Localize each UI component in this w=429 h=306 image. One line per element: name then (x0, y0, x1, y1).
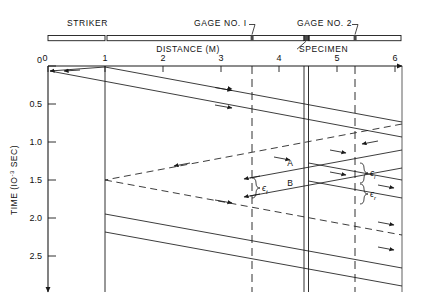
wave-striker-release (50, 71, 402, 137)
y-axis-title: TIME (IO-3 SEC) (9, 145, 20, 215)
x-axis-title: DISTANCE (M) (156, 44, 219, 54)
gage-1-marker-shape (251, 36, 254, 41)
y-tick-label-0: 0 (37, 55, 42, 65)
x-tick-label-2: 2 (160, 53, 165, 63)
y-tick-marks (48, 66, 56, 256)
wave-characteristics (50, 67, 402, 286)
xt-diagram: STRIKER GAGE NO. I GAGE NO. 2 SPECIMEN 0… (0, 0, 429, 306)
eps-r-bracket (360, 184, 368, 204)
axes: 0 1 2 3 4 5 6 0 0.5 1.0 1.5 2.0 2.5 DIST… (9, 44, 403, 292)
wave-lower-solid-2 (105, 232, 402, 286)
vertical-markers (105, 66, 402, 292)
arrow-release-right (215, 105, 232, 108)
wave-specimen-reflect-2 (250, 168, 402, 196)
arrow-guide-1 (160, 76, 232, 89)
y-tick-label-05: 0.5 (29, 99, 42, 109)
arrow-lower-right-1 (378, 247, 394, 250)
striker-label: STRIKER (67, 18, 108, 28)
incident-bar-shape (107, 36, 304, 41)
y-tick-label-15: 1.5 (29, 175, 42, 185)
gage-2-leader-line (352, 25, 358, 35)
wave-specimen-reflect-1 (250, 150, 402, 178)
eps-transmitted-label: ϵt (262, 183, 268, 195)
point-b-label: B (287, 178, 293, 188)
x-tick-label-6: 6 (392, 53, 397, 63)
svg-text:TIME (IO-3 SEC): TIME (IO-3 SEC) (9, 145, 20, 215)
x-tick-label-5: 5 (334, 53, 339, 63)
specimen-label: SPECIMEN (299, 44, 348, 54)
wave-incident-front-b (105, 68, 402, 124)
wave-incident-front (105, 67, 402, 122)
arrow-incident-right (215, 88, 232, 91)
eps-incident-label: ϵi (370, 168, 376, 180)
gage-2-label: GAGE NO. 2 (297, 18, 352, 28)
y-tick-label-10: 1.0 (29, 137, 42, 147)
striker-bar-shape (48, 36, 105, 41)
arrow-reflect-back-left (362, 141, 378, 144)
y-axis-title-main: TIME (IO (9, 177, 19, 215)
annotations: A B ϵi ϵr ϵt (252, 158, 377, 204)
gage-2-marker-shape (354, 36, 357, 41)
x-tick-label-4: 4 (276, 53, 281, 63)
wave-lower-solid-1 (105, 214, 402, 268)
x-tick-label-0: 0 (42, 53, 47, 63)
gage-1-leader-line (249, 25, 255, 35)
x-tick-marks (48, 66, 395, 72)
specimen-shape (304, 36, 309, 41)
arrow-transmitted-right (330, 150, 346, 153)
x-tick-label-3: 3 (218, 53, 223, 63)
eps-reflected-label: ϵr (370, 189, 377, 201)
wave-reflected-dashed-right (105, 180, 402, 235)
arrow-far-right (378, 185, 394, 188)
point-a-label: A (287, 158, 293, 168)
arrow-transmitted-right-2 (330, 172, 346, 175)
x-tick-label-1: 1 (102, 53, 107, 63)
wave-direction-arrows (64, 70, 394, 250)
arrow-lower-right-2 (378, 222, 394, 225)
y-axis-title-tail: SEC) (9, 145, 19, 170)
bar-assembly-schematic: STRIKER GAGE NO. I GAGE NO. 2 SPECIMEN (48, 18, 401, 54)
y-tick-label-20: 2.0 (29, 213, 42, 223)
arrow-dashed-right (215, 200, 232, 203)
figure-root: STRIKER GAGE NO. I GAGE NO. 2 SPECIMEN 0… (0, 0, 429, 306)
gage-1-label: GAGE NO. I (194, 18, 247, 28)
y-tick-label-25: 2.5 (29, 251, 42, 261)
